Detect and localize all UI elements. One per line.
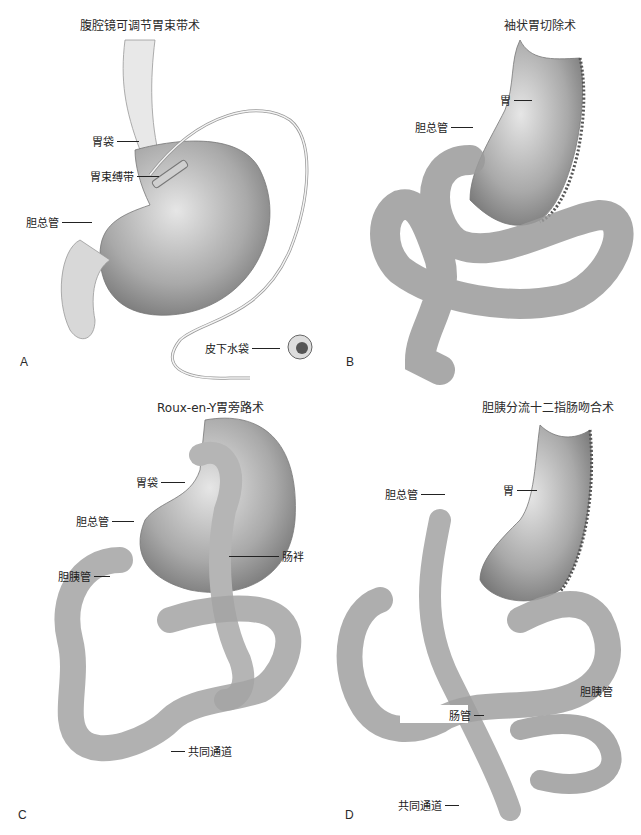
panel-a-art: [61, 40, 312, 378]
panel-d-letter: D: [345, 808, 354, 822]
panel-c-letter: C: [18, 808, 27, 822]
label-common-bile-duct: 胆总管: [385, 486, 448, 502]
label-common-bile-duct: 胆总管: [76, 513, 137, 529]
label-alimentary-limb: 肠管: [449, 707, 487, 723]
surgery-illustrations: [0, 0, 641, 835]
label-common-channel: 共同通道: [398, 797, 462, 813]
panel-c-title: Roux-en-Y胃旁路术: [157, 398, 264, 415]
panel-a-letter: A: [20, 355, 28, 369]
panel-b-art: [385, 40, 619, 370]
figure-caption-truncated: [0, 826, 641, 835]
label-biliopancreatic-limb: 胆胰管: [58, 568, 113, 584]
label-common-channel: 共同通道: [168, 743, 232, 759]
panel-b-title: 袖状胃切除术: [504, 16, 576, 33]
panel-d-title: 胆胰分流十二指肠吻合术: [482, 398, 614, 415]
panel-d-art: [350, 425, 612, 810]
panel-a-title: 腹腔镜可调节胃束带术: [80, 16, 200, 33]
label-common-bile-duct: 胆总管: [415, 119, 476, 135]
label-gastric-pouch: 胃袋: [92, 133, 142, 149]
label-stomach: 胃: [503, 482, 540, 498]
label-stomach: 胃: [500, 92, 535, 108]
label-subcutaneous-port: 皮下水袋: [205, 340, 283, 356]
label-roux-limb: 肠袢: [226, 548, 304, 564]
label-biliopancreatic-limb: 胆胰管: [580, 683, 613, 699]
label-common-bile-duct: 胆总管: [26, 214, 95, 230]
label-gastric-band: 胃束缚带: [90, 168, 162, 184]
panel-b-letter: B: [346, 355, 354, 369]
label-gastric-pouch: 胃袋: [136, 474, 188, 490]
